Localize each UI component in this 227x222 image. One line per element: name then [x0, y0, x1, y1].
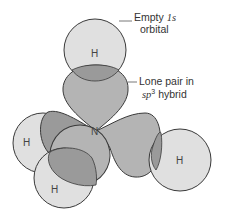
- h-left-label: H: [23, 137, 30, 148]
- lone-pair-label-line2: sp3 hybrid: [142, 88, 187, 100]
- h-bottom-label: H: [51, 184, 58, 195]
- n-atom-label: N: [91, 126, 98, 137]
- empty-orbital-label-line2: orbital: [140, 23, 169, 35]
- nh3-orbital-diagram: H H H H N Empty 1s orbital Lone pair in …: [0, 0, 227, 222]
- h-top-label: H: [91, 48, 98, 59]
- empty-orbital-label-line1: Empty 1s: [134, 11, 176, 23]
- h-right-label: H: [176, 155, 183, 166]
- lone-pair-label-line1: Lone pair in: [139, 75, 194, 87]
